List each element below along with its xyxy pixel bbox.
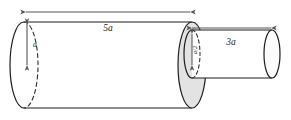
geometry-figure: 5a a 3a a/2 <box>0 0 291 120</box>
dimension-label-3a: 3a <box>225 37 236 47</box>
small-cylinder-right-cap <box>264 30 280 78</box>
large-cylinder-body-fill <box>24 22 192 108</box>
dimension-label-5a: 5a <box>103 23 113 33</box>
large-cylinder-left-cap-visible-arc <box>10 22 24 108</box>
large-cylinder <box>10 22 206 108</box>
cylinders-diagram-svg: 5a a 3a a/2 <box>0 0 291 120</box>
dimension-label-a: a <box>33 40 37 49</box>
dimension-label-a-half: a/2 <box>191 45 198 54</box>
